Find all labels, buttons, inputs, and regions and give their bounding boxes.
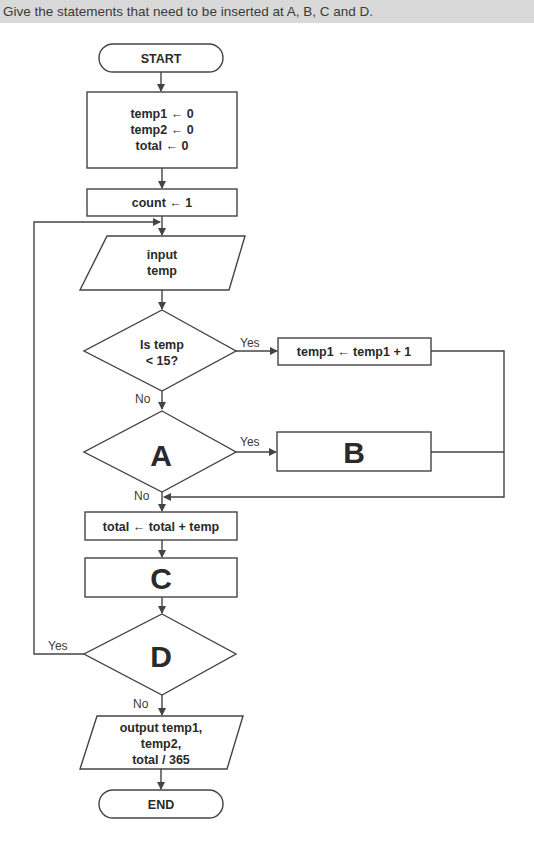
process-b-box: B [277, 432, 431, 471]
decision-temp-less-than-15: Is temp < 15? [84, 310, 236, 391]
decision-d: D [84, 614, 236, 695]
init-total: total ← 0 [136, 139, 189, 153]
start-terminator: START [99, 44, 223, 72]
process-b-label: B [343, 436, 365, 469]
decision-d-no-label: No [133, 697, 149, 711]
decision1-line1: Is temp [140, 338, 184, 352]
decision1-no-label: No [135, 392, 151, 406]
decision-d-label: D [150, 640, 172, 673]
decision1-line2: < 15? [146, 354, 178, 368]
decision-a-label: A [150, 439, 172, 472]
decision1-yes-label: Yes [240, 336, 260, 350]
input-label-2: temp [147, 264, 177, 278]
start-label: START [141, 52, 182, 66]
init-process-box: temp1 ← 0 temp2 ← 0 total ← 0 [87, 92, 237, 168]
decision-a-yes-label: Yes [240, 435, 260, 449]
decision-d-yes-label: Yes [48, 639, 68, 653]
decision-a: A [84, 411, 236, 492]
flowchart: START temp1 ← 0 temp2 ← 0 total ← 0 coun… [0, 0, 534, 852]
output-line-1: output temp1, [120, 721, 203, 735]
output-line-3: total / 365 [132, 753, 190, 767]
init-temp1: temp1 ← 0 [130, 107, 193, 121]
end-label: END [148, 798, 174, 812]
increment-temp1-label: temp1 ← temp1 + 1 [297, 345, 411, 359]
merge-return-arrow [164, 351, 504, 497]
end-terminator: END [99, 790, 223, 818]
increment-temp1-box: temp1 ← temp1 + 1 [278, 338, 431, 365]
output-line-2: temp2, [141, 737, 181, 751]
count-init-label: count ← 1 [132, 196, 192, 210]
input-temp-parallelogram: input temp [80, 236, 245, 290]
output-parallelogram: output temp1, temp2, total / 365 [80, 716, 243, 769]
count-process-box: count ← 1 [87, 189, 237, 216]
total-accumulate-box: total ← total + temp [85, 512, 237, 540]
process-c-label: C [150, 562, 172, 595]
total-accumulate-label: total ← total + temp [103, 520, 220, 534]
decision-a-no-label: No [134, 489, 150, 503]
process-c-box: C [85, 558, 237, 597]
input-label-1: input [147, 248, 178, 262]
init-temp2: temp2 ← 0 [130, 123, 193, 137]
